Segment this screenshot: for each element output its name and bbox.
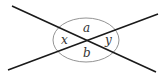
label-b: b	[83, 46, 91, 60]
angle-diagram: a b x y	[0, 0, 165, 79]
diagram-canvas: a b x y	[0, 0, 165, 79]
label-y: y	[104, 33, 112, 47]
label-x: x	[61, 33, 68, 47]
label-a: a	[83, 21, 90, 35]
